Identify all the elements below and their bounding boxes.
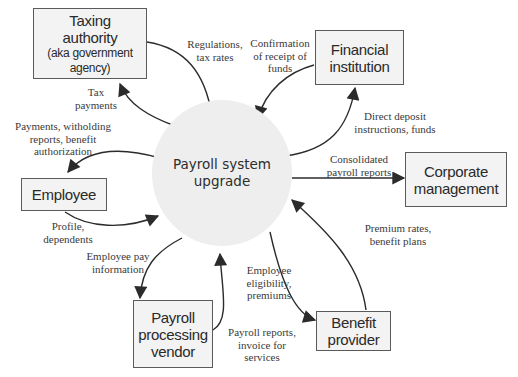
flow-label-consolidated: Consolidated payroll reports (315, 153, 403, 178)
label-line: Direct deposit (341, 110, 449, 123)
label-line: invoice for (217, 339, 307, 352)
entity-financial-institution: Financial institution (315, 30, 404, 85)
label-line: benefit plans (356, 235, 440, 248)
flow-label-payroll-reports: Payroll reports, invoice for services (217, 326, 307, 364)
flow-label-payments-withholding: Payments, witholding reports, benefit au… (8, 120, 118, 158)
center-line1: Payroll system (173, 156, 271, 173)
financial-institution-line2: institution (329, 58, 389, 75)
label-line: Employee pay (82, 250, 154, 263)
label-line: Payments, witholding (8, 120, 118, 133)
label-line: Premium rates, (356, 222, 440, 235)
label-line: Consolidated (315, 153, 403, 166)
entity-taxing-authority: Taxing authority (aka government agency) (33, 8, 147, 79)
label-line: information (82, 263, 154, 276)
label-line: funds (245, 62, 315, 75)
financial-institution-line1: Financial (331, 41, 388, 58)
entity-benefit-provider: Benefit provider (316, 311, 391, 351)
center-line2: upgrade (194, 173, 250, 190)
label-line: Confirmation (245, 37, 315, 50)
label-line: Employee (233, 264, 305, 277)
benefit-provider-line1: Benefit (331, 314, 376, 331)
flow-label-premium-rates: Premium rates, benefit plans (356, 222, 440, 247)
flow-label-employee-eligibility: Employee eligibility, premiums (233, 264, 305, 302)
taxing-authority-sub: (aka government agency) (34, 46, 146, 76)
label-line: reports, benefit (8, 133, 118, 146)
label-line: of receipt of (245, 50, 315, 63)
corporate-management-line1: Corporate (424, 163, 488, 180)
arrow-tax-payments (120, 84, 175, 126)
label-line: services (217, 351, 307, 364)
payroll-context-diagram: Payroll system upgrade Taxing authority … (0, 0, 518, 377)
arrow-payroll-reports (213, 254, 224, 330)
label-line: instructions, funds (341, 123, 449, 136)
flow-label-tax-payments: Tax payments (68, 86, 124, 111)
benefit-provider-line2: provider (328, 331, 380, 348)
label-line: payroll reports (315, 166, 403, 179)
label-line: authorization (8, 145, 118, 158)
taxing-authority-line2: authority (63, 29, 118, 46)
flow-label-employee-pay: Employee pay information (82, 250, 154, 275)
label-line: eligibility, (233, 277, 305, 290)
corporate-management-line2: management (414, 180, 499, 197)
flow-label-confirmation: Confirmation of receipt of funds (245, 37, 315, 75)
payroll-vendor-line1: Payroll (151, 309, 195, 326)
taxing-authority-line1: Taxing (69, 12, 111, 29)
label-line: premiums (233, 289, 305, 302)
label-line: payments (68, 99, 124, 112)
payroll-vendor-line2: processing (138, 326, 208, 343)
flow-label-direct-deposit: Direct deposit instructions, funds (341, 110, 449, 135)
label-line: Payroll reports, (217, 326, 307, 339)
label-line: Profile, (34, 220, 102, 233)
entity-corporate-management: Corporate management (405, 152, 507, 207)
entity-payroll-processing-vendor: Payroll processing vendor (133, 300, 213, 368)
payroll-vendor-line3: vendor (151, 343, 195, 360)
center-process-payroll-system-upgrade: Payroll system upgrade (152, 100, 292, 246)
entity-employee: Employee (21, 178, 107, 211)
label-line: Tax (68, 86, 124, 99)
employee-line1: Employee (32, 186, 96, 203)
label-line: dependents (34, 233, 102, 246)
flow-label-profile: Profile, dependents (34, 220, 102, 245)
